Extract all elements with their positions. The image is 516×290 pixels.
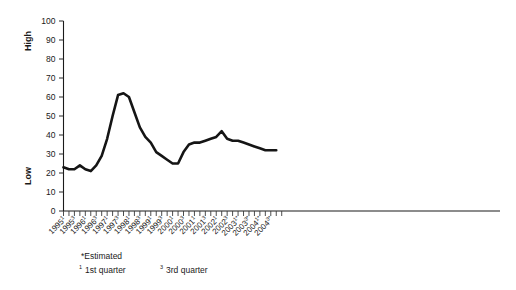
y-tick-label: 70 (46, 73, 56, 83)
axis-title-low: Low (23, 166, 33, 185)
line-chart: 0102030405060708090100 HighLow 199511995… (0, 0, 516, 290)
axis-title-high: High (23, 31, 33, 51)
x-tick-labels: 1995119953199611996319971199731998119983… (46, 214, 276, 238)
footnote-q3: 33rd quarter (160, 264, 208, 275)
footnote-q1: 11st quarter (79, 264, 126, 275)
y-tick-label: 40 (46, 130, 56, 140)
chart-container: 0102030405060708090100 HighLow 199511995… (0, 0, 516, 290)
y-axis: 0102030405060708090100 (41, 16, 63, 216)
axis-titles: HighLow (23, 31, 33, 185)
x-axis (64, 211, 501, 216)
y-tick-label: 0 (51, 206, 56, 216)
footnote-estimated: *Estimated (81, 251, 122, 261)
y-tick-label: 90 (46, 35, 56, 45)
y-tick-label: 80 (46, 54, 56, 64)
y-tick-label: 20 (46, 168, 56, 178)
y-tick-label: 60 (46, 92, 56, 102)
y-tick-label: 50 (46, 111, 56, 121)
y-tick-label: 100 (41, 16, 55, 26)
data-series (64, 93, 277, 171)
series-line (64, 93, 277, 171)
y-tick-label: 30 (46, 149, 56, 159)
y-tick-label: 10 (46, 187, 56, 197)
footnotes: *Estimated11st quarter33rd quarter (79, 251, 208, 275)
